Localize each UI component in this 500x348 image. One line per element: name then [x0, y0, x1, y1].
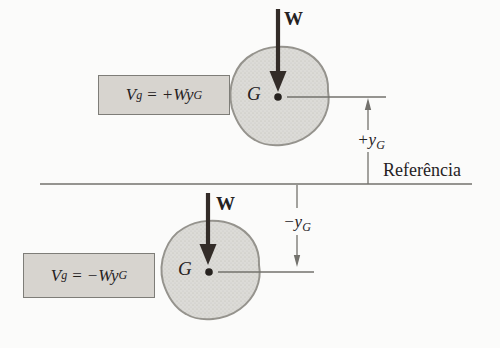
gravity-center-label-bottom: G: [178, 259, 192, 278]
formula-top-lhs-sub: g: [136, 88, 142, 103]
weight-label-top: W: [284, 9, 303, 28]
formula-bottom-rhs-sub: G: [118, 268, 127, 283]
formula-bottom-lhs-sub: g: [61, 268, 67, 283]
formula-bottom-equals: =: [72, 266, 82, 286]
weight-label-bottom: W: [216, 194, 235, 213]
dimension-label-bottom-base: −y: [283, 212, 302, 231]
formula-top-rhs: +Wy: [162, 85, 194, 105]
dimension-label-bottom-sub: G: [302, 220, 311, 234]
formula-top-rhs-sub: G: [193, 88, 202, 103]
formula-box-top: Vg=+WyG: [98, 75, 230, 115]
center-of-gravity-dot-top: [274, 93, 282, 101]
figure-canvas: Vg=+WyG Vg=−WyG W G +yG Referência W G −…: [0, 0, 500, 348]
formula-bottom-rhs: −Wy: [87, 266, 119, 286]
dimension-label-bottom: −yG: [271, 213, 323, 233]
formula-top-lhs: V: [126, 85, 136, 105]
dimension-label-top-sub: G: [376, 138, 385, 152]
formula-box-bottom: Vg=−WyG: [23, 253, 155, 298]
dimension-arrow-down-icon: [294, 255, 300, 267]
center-of-gravity-dot-bottom: [205, 268, 213, 276]
formula-top-equals: =: [147, 85, 157, 105]
gravity-center-label-top: G: [247, 84, 261, 103]
dimension-label-top-base: +y: [357, 130, 376, 149]
dimension-label-top: +yG: [345, 131, 397, 151]
formula-bottom-lhs: V: [51, 266, 61, 286]
reference-label: Referência: [383, 161, 461, 179]
